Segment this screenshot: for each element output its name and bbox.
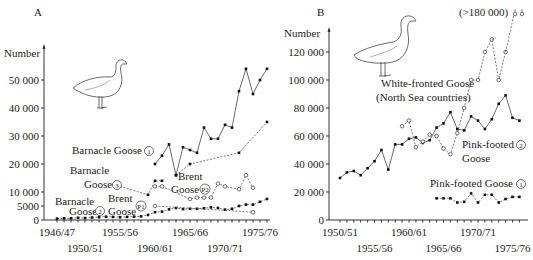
data-point-a-barnacle-goose-2-30	[266, 198, 269, 201]
panel-a-label: A	[34, 6, 42, 18]
data-point-a-barnacle-goose-1-2	[168, 143, 171, 146]
x-tick-label-b-row2-1: 1965/66	[425, 242, 462, 254]
x-tick-label-b-row1-2: 1970/71	[460, 226, 496, 238]
label-pink-footed-goose-1: Pink-footed Goose	[430, 177, 513, 189]
y-axis-arrow-a	[43, 44, 46, 49]
y-tick-label-b-4: 80 000	[294, 102, 325, 114]
data-point-b-pink-footed-goose-2-7	[387, 168, 390, 171]
data-point-a-barnacle-goose-2-15	[161, 210, 164, 213]
data-point-a-barnacle-goose-1-trend-2	[238, 152, 241, 155]
data-point-b-pink-footed-goose-2-1	[346, 171, 349, 174]
label-pink-footed-goose-2-line1: Pink-footed	[462, 138, 514, 150]
y-tick-label-b-3: 60 000	[294, 130, 325, 142]
x-tick-label-a-row2-0: 1950/51	[67, 242, 103, 254]
data-point-b-pink-footed-goose-1-2	[449, 197, 452, 200]
data-point-b-pink-footed-goose-1-4	[463, 201, 466, 204]
label-barnacle-goose-2-line2: Goose	[69, 205, 97, 217]
data-point-a-brent-goose-p2-2	[188, 197, 192, 201]
data-point-b-pink-footed-goose-1-0	[435, 197, 438, 200]
x-tick-label-a-row1-0: 1946/47	[39, 226, 76, 238]
data-point-b-pink-footed-goose-1-7	[484, 194, 487, 197]
data-point-b-pink-footed-goose-2-5	[373, 160, 376, 163]
data-point-a-barnacle-goose-2-4	[84, 217, 87, 220]
data-point-a-brent-goose-p2-5	[209, 196, 213, 200]
data-point-b-white-fronted-goose-north-sea-countries-1	[407, 119, 411, 123]
data-point-b-pink-footed-goose-2-22	[491, 118, 494, 121]
data-point-b-pink-footed-goose-1-12	[518, 196, 521, 199]
data-point-b-pink-footed-goose-2-15	[442, 122, 445, 125]
series-line-a-barnacle-goose-1-trend	[176, 122, 267, 175]
x-ticks-b: 1950/511960/611970/711955/561965/661975/…	[322, 220, 531, 254]
label-off-scale: (>180 000)	[459, 6, 509, 19]
data-point-a-barnacle-goose-1-14	[252, 93, 255, 96]
data-point-b-pink-footed-goose-2-25	[511, 117, 514, 120]
data-point-a-barnacle-goose-3-1	[147, 194, 150, 197]
circle-marker-pf-2-text: 2	[519, 142, 523, 150]
label-pink-footed-goose-2-line2: Goose	[462, 152, 490, 164]
data-point-b-pink-footed-goose-2-10	[408, 138, 411, 141]
data-point-a-brent-goose-p2-7	[223, 185, 227, 189]
y-tick-label-a-1: 5000	[17, 200, 40, 212]
data-point-a-brent-goose-p2-0	[153, 185, 157, 189]
data-point-b-pink-footed-goose-2-21	[484, 128, 487, 131]
x-tick-label-a-row1-1: 1955/56	[102, 226, 139, 238]
data-point-a-barnacle-goose-1-6	[196, 152, 199, 155]
circle-marker-p1-text: P1	[137, 203, 145, 211]
circle-marker-1-text: 1	[147, 148, 151, 156]
data-point-b-white-fronted-goose-north-sea-countries-12	[483, 50, 487, 54]
data-point-b-white-fronted-goose-north-sea-countries-4	[428, 133, 432, 137]
data-point-a-barnacle-goose-1-1	[161, 154, 164, 157]
data-point-a-barnacle-goose-2-6	[98, 216, 101, 219]
data-point-b-white-fronted-goose-north-sea-countries-9	[462, 106, 466, 110]
data-point-a-barnacle-goose-2-26	[238, 205, 241, 208]
data-point-b-pink-footed-goose-1-1	[442, 197, 445, 200]
data-point-b-pink-footed-goose-2-0	[339, 177, 342, 180]
data-point-a-barnacle-goose-1-7	[203, 126, 206, 129]
x-tick-label-b-row1-1: 1960/61	[391, 226, 427, 238]
data-point-b-white-fronted-goose-north-sea-countries-0	[400, 124, 404, 128]
data-point-b-white-fronted-goose-north-sea-countries-6	[442, 147, 446, 151]
data-point-b-pink-footed-goose-2-24	[504, 94, 507, 97]
label-white-fronted-goose-line2: (North Sea countries)	[376, 91, 471, 104]
circle-marker-pf-1-text: 1	[519, 181, 523, 189]
y-tick-label-b-2: 40 000	[294, 158, 325, 170]
y-tick-label-b-5: 100 000	[288, 74, 324, 86]
data-point-a-barnacle-goose-1-16	[266, 68, 269, 71]
x-tick-label-a-row1-3: 1975/76	[242, 226, 279, 238]
data-point-b-white-fronted-goose-north-sea-countries-8	[456, 131, 460, 135]
panel-b: B Number 020 00040 00060 00080 000100 00…	[284, 6, 531, 254]
data-point-b-white-fronted-goose-north-sea-countries-5	[435, 134, 439, 138]
data-point-b-pink-footed-goose-2-6	[380, 149, 383, 152]
data-point-b-pink-footed-goose-2-14	[435, 126, 438, 129]
x-ticks-a: 1946/471955/561965/661975/761950/511960/…	[39, 220, 279, 254]
data-point-b-pink-footed-goose-2-19	[470, 115, 473, 118]
data-point-a-brent-goose-p2-4	[202, 196, 206, 200]
data-point-a-barnacle-goose-2-16	[168, 208, 171, 211]
data-point-a-barnacle-goose-2-28	[252, 203, 255, 206]
x-tick-label-b-row1-0: 1950/51	[322, 226, 358, 238]
data-point-a-barnacle-goose-2-23	[217, 207, 220, 210]
series-group-b	[339, 15, 521, 204]
data-point-b-pink-footed-goose-2-13	[428, 139, 431, 142]
data-point-a-brent-goose-p2-10	[251, 186, 255, 190]
data-point-a-barnacle-goose-1-0	[154, 163, 157, 166]
data-point-b-pink-footed-goose-2-8	[394, 143, 397, 146]
data-point-a-barnacle-goose-3-2	[154, 180, 157, 183]
data-point-a-brent-goose-p1-1	[251, 210, 255, 214]
data-point-a-brent-goose-p2-1	[160, 185, 164, 189]
data-point-b-white-fronted-goose-north-sea-countries-3	[421, 140, 425, 144]
data-point-a-barnacle-goose-2-13	[147, 214, 150, 217]
data-point-b-pink-footed-goose-2-4	[366, 167, 369, 170]
data-point-a-barnacle-goose-2-0	[56, 217, 59, 220]
y-ticks-a: 0500010 00020 00030 00040 00050 000	[9, 74, 44, 226]
data-point-b-pink-footed-goose-2-2	[353, 170, 356, 173]
data-point-b-white-fronted-goose-north-sea-countries-11	[476, 78, 480, 82]
circle-marker-p2-text: P2	[201, 186, 209, 194]
data-point-b-pink-footed-goose-1-9	[497, 201, 500, 204]
data-point-a-barnacle-goose-2-2	[70, 217, 73, 220]
x-tick-label-a-row2-2: 1970/71	[207, 242, 243, 254]
off-scale-extension-line	[506, 15, 514, 52]
data-point-b-pink-footed-goose-2-11	[415, 136, 418, 139]
y-tick-label-a-3: 20 000	[9, 158, 40, 170]
data-point-a-barnacle-goose-1-trend-1	[189, 163, 192, 166]
